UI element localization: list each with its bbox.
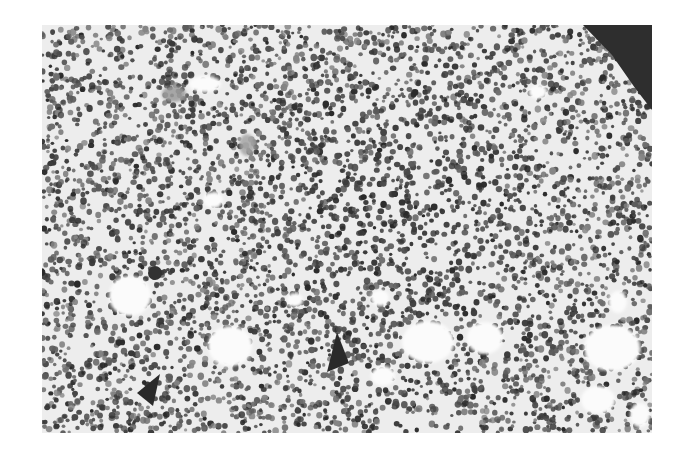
dark-cell-cluster bbox=[148, 266, 162, 280]
micrograph-image bbox=[0, 0, 682, 462]
